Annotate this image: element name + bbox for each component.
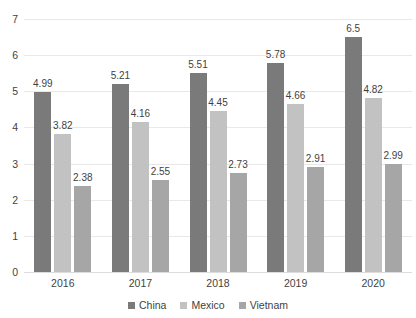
bar-rect xyxy=(365,98,382,272)
bar-vietnam-2020[interactable]: 2.99 xyxy=(385,19,402,272)
bar-vietnam-2016[interactable]: 2.38 xyxy=(74,19,91,272)
bar-mexico-2017[interactable]: 4.16 xyxy=(132,19,149,272)
bar-rect xyxy=(34,92,51,272)
y-axis-tick-label: 0 xyxy=(2,267,18,278)
bar-value-label: 2.55 xyxy=(144,167,176,177)
bar-rect xyxy=(152,180,169,272)
y-axis-tick-label: 6 xyxy=(2,50,18,61)
bar-vietnam-2019[interactable]: 2.91 xyxy=(307,19,324,272)
bar-mexico-2016[interactable]: 3.82 xyxy=(54,19,71,272)
bar-china-2019[interactable]: 5.78 xyxy=(267,19,284,272)
legend-swatch-icon xyxy=(180,302,187,309)
plot-area: 4.993.822.385.214.162.555.514.452.735.78… xyxy=(24,19,412,272)
bar-rect xyxy=(54,134,71,272)
bar-group: 6.54.822.99 xyxy=(345,19,402,272)
bar-rect xyxy=(345,37,362,272)
bar-mexico-2018[interactable]: 4.45 xyxy=(210,19,227,272)
y-axis-tick-label: 4 xyxy=(2,122,18,133)
bar-china-2016[interactable]: 4.99 xyxy=(34,19,51,272)
bar-vietnam-2018[interactable]: 2.73 xyxy=(230,19,247,272)
legend-item-vietnam[interactable]: Vietnam xyxy=(239,300,288,311)
bar-group: 5.214.162.55 xyxy=(112,19,169,272)
bar-rect xyxy=(74,186,91,272)
bar-rect xyxy=(307,167,324,272)
bar-value-label: 2.99 xyxy=(377,151,409,161)
chart-title xyxy=(0,0,416,1)
y-axis-tick-label: 2 xyxy=(2,194,18,205)
bar-rect xyxy=(287,104,304,272)
x-axis-tick-label: 2016 xyxy=(28,278,98,289)
y-axis-tick-label: 1 xyxy=(2,231,18,242)
legend-label: Vietnam xyxy=(250,300,288,311)
bar-rect xyxy=(132,122,149,272)
bar-group: 5.784.662.91 xyxy=(267,19,324,272)
bar-rect xyxy=(385,164,402,272)
bar-chart: 01234567 4.993.822.385.214.162.555.514.4… xyxy=(0,0,416,318)
bar-vietnam-2017[interactable]: 2.55 xyxy=(152,19,169,272)
bar-china-2020[interactable]: 6.5 xyxy=(345,19,362,272)
bar-group: 5.514.452.73 xyxy=(190,19,247,272)
bar-mexico-2020[interactable]: 4.82 xyxy=(365,19,382,272)
y-axis-tick-label: 5 xyxy=(2,86,18,97)
x-axis-tick-label: 2020 xyxy=(338,278,408,289)
chart-legend: ChinaMexicoVietnam xyxy=(0,300,416,311)
gridline xyxy=(24,272,412,273)
y-axis-tick-label: 7 xyxy=(2,14,18,25)
x-axis-tick-label: 2017 xyxy=(105,278,175,289)
legend-swatch-icon xyxy=(239,302,246,309)
bar-mexico-2019[interactable]: 4.66 xyxy=(287,19,304,272)
legend-item-mexico[interactable]: Mexico xyxy=(180,300,224,311)
bar-rect xyxy=(230,173,247,272)
y-axis-tick-label: 3 xyxy=(2,158,18,169)
bar-group: 4.993.822.38 xyxy=(34,19,91,272)
bar-china-2018[interactable]: 5.51 xyxy=(190,19,207,272)
bar-value-label: 2.73 xyxy=(222,160,254,170)
bar-china-2017[interactable]: 5.21 xyxy=(112,19,129,272)
x-axis-tick-label: 2019 xyxy=(261,278,331,289)
bar-value-label: 2.91 xyxy=(300,154,332,164)
bar-rect xyxy=(210,111,227,272)
legend-label: China xyxy=(139,300,166,311)
x-axis-tick-label: 2018 xyxy=(183,278,253,289)
bar-value-label: 2.38 xyxy=(67,173,99,183)
legend-label: Mexico xyxy=(191,300,224,311)
legend-swatch-icon xyxy=(128,302,135,309)
legend-item-china[interactable]: China xyxy=(128,300,166,311)
